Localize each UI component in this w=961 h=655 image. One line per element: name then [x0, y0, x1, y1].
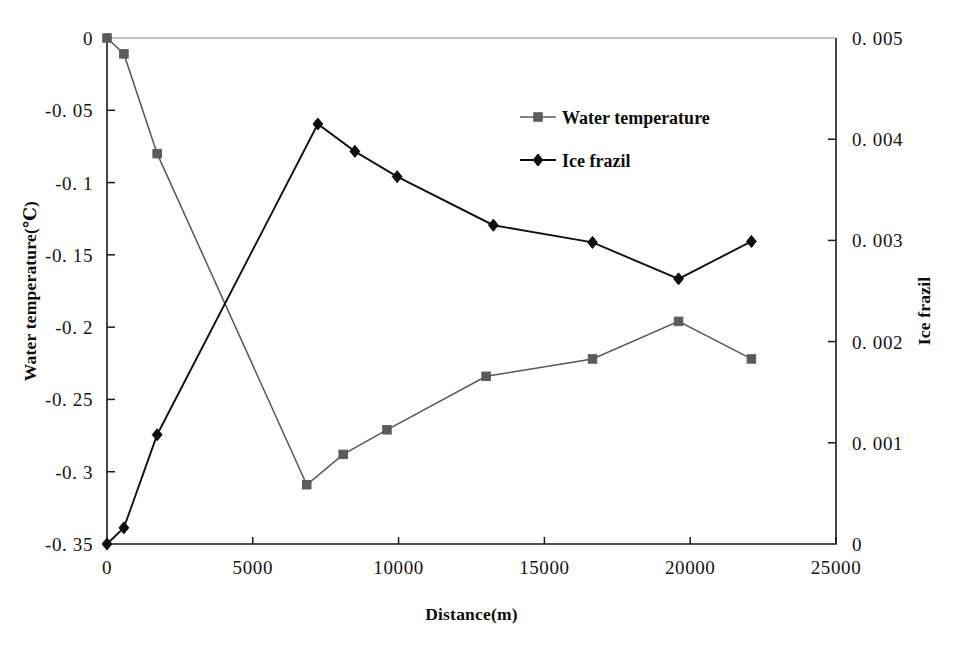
y-right-tick-label: 0. 005	[852, 28, 903, 49]
y-left-tick-label: -0. 15	[45, 245, 93, 266]
data-point-ice-frazil	[674, 273, 684, 285]
y-left-tick-label: -0. 35	[45, 534, 93, 555]
data-point-ice-frazil	[488, 219, 498, 231]
data-point-water-temperature	[302, 480, 311, 489]
y-right-tick-label: 0. 001	[852, 433, 903, 454]
legend-label: Ice frazil	[562, 151, 630, 171]
axis-frame	[107, 38, 836, 544]
axis-titles: Distance(m)Water temperature(℃)Ice frazi…	[20, 201, 934, 624]
x-tick-label: 20000	[665, 557, 716, 578]
chart-figure: 05000100001500020000250000-0. 05-0. 1-0.…	[0, 0, 961, 655]
x-axis-title: Distance(m)	[425, 604, 518, 624]
series-line-water-temperature	[107, 38, 751, 485]
data-point-ice-frazil	[588, 236, 598, 248]
data-point-water-temperature	[747, 355, 756, 364]
data-point-water-temperature	[588, 355, 597, 364]
legend-marker-diamond	[533, 154, 543, 166]
x-tick-label: 10000	[373, 557, 424, 578]
legend-marker-square	[534, 113, 543, 122]
y-left-tick-label: 0	[83, 28, 93, 49]
legend-label: Water temperature	[562, 108, 710, 128]
axes	[107, 38, 836, 544]
y-left-tick-label: -0. 2	[55, 317, 93, 338]
data-point-ice-frazil	[350, 145, 360, 157]
y-left-tick-label: -0. 3	[55, 462, 93, 483]
y-left-tick-label: -0. 05	[45, 100, 93, 121]
y-right-tick-label: 0. 002	[852, 332, 903, 353]
x-tick-label: 15000	[519, 557, 570, 578]
data-point-ice-frazil	[152, 429, 162, 441]
y-right-axis-title: Ice frazil	[914, 277, 934, 346]
data-point-ice-frazil	[313, 118, 323, 130]
data-point-water-temperature	[482, 372, 491, 381]
tick-labels: 05000100001500020000250000-0. 05-0. 1-0.…	[45, 28, 903, 578]
x-tick-label: 25000	[811, 557, 862, 578]
data-point-ice-frazil	[747, 235, 757, 247]
y-left-tick-label: -0. 1	[55, 173, 93, 194]
data-point-water-temperature	[339, 450, 348, 459]
y-right-tick-label: 0. 003	[852, 230, 903, 251]
data-point-water-temperature	[383, 426, 392, 435]
chart-canvas: 05000100001500020000250000-0. 05-0. 1-0.…	[0, 0, 961, 655]
data-point-water-temperature	[103, 34, 112, 43]
data-point-water-temperature	[120, 50, 129, 59]
data-point-water-temperature	[153, 149, 162, 158]
x-tick-label: 5000	[233, 557, 273, 578]
chart-legend: Water temperatureIce frazil	[520, 108, 710, 171]
series-line-ice-frazil	[107, 124, 751, 544]
y-right-tick-label: 0	[852, 534, 862, 555]
data-point-water-temperature	[674, 317, 683, 326]
y-right-tick-label: 0. 004	[852, 129, 903, 150]
x-tick-label: 0	[102, 557, 112, 578]
y-left-tick-label: -0. 25	[45, 389, 93, 410]
data-point-ice-frazil	[392, 171, 402, 183]
y-left-axis-title: Water temperature(℃)	[20, 201, 40, 381]
